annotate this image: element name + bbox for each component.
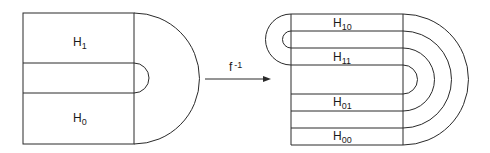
arrow-head-icon <box>263 76 271 82</box>
region-label-h10: H10 <box>333 16 352 32</box>
left-inner-fold-arc <box>134 63 149 93</box>
right-fold-arc-1 <box>403 65 418 94</box>
right-figure: H10 H11 H01 H00 <box>266 14 469 145</box>
region-label-h00: H00 <box>333 129 352 145</box>
right-fold-arc-4 <box>403 14 468 145</box>
right-left-outer-fold-arc <box>266 14 292 65</box>
right-fold-arc-2 <box>403 48 435 111</box>
left-outer-fold-arc <box>134 13 199 144</box>
region-label-h01: H01 <box>333 95 352 111</box>
inverse-map-arrow: f-1 <box>205 60 271 82</box>
region-label-h11: H11 <box>333 50 351 66</box>
arrow-label: f-1 <box>229 60 242 74</box>
left-figure: H1 H0 <box>23 13 199 144</box>
region-label-h0: H0 <box>73 111 87 127</box>
right-fold-arc-3 <box>403 31 452 128</box>
region-label-h1: H1 <box>73 35 87 51</box>
diagram-canvas: H1 H0 f-1 H10 <box>0 0 490 153</box>
right-left-inner-fold-arc <box>283 31 292 48</box>
